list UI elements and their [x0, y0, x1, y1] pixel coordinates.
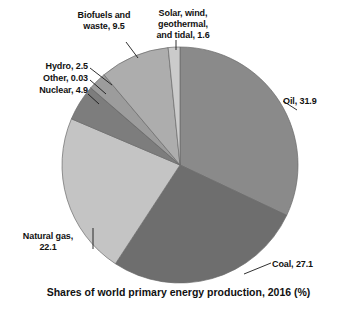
slice-label-oil: Oil, 31.9: [283, 96, 353, 107]
slice-label-other: Other, 0.03: [4, 73, 88, 84]
pie-chart-figure: Biofuels and waste, 9.5 Solar, wind, geo…: [0, 0, 357, 309]
slice-label-nuclear: Nuclear, 4.9: [2, 85, 88, 96]
leader-line-biofuels: [126, 42, 138, 58]
slice-label-coal: Coal, 27.1: [272, 259, 354, 270]
slice-label-solar: Solar, wind, geothermal, and tidal, 1.6: [141, 8, 225, 41]
slice-label-biofuels: Biofuels and waste, 9.5: [57, 10, 151, 32]
chart-caption: Shares of world primary energy productio…: [0, 286, 357, 298]
pie-slice-group: [62, 47, 298, 283]
slice-label-natural-gas: Natural gas, 22.1: [6, 231, 90, 253]
leader-line-coal: [244, 263, 271, 274]
slice-label-hydro: Hydro, 2.5: [8, 61, 88, 72]
